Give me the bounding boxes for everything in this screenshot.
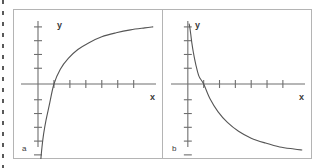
dashed-margin-rule <box>2 0 4 168</box>
x-axis-label-a: x <box>150 93 155 102</box>
curve-a <box>39 27 153 159</box>
plot-area-a <box>13 9 163 159</box>
panel-caption-a: a <box>22 145 26 153</box>
x-axis-label-b: x <box>299 93 304 102</box>
plot-area-b <box>163 9 312 159</box>
y-axis-label-b: y <box>195 21 200 30</box>
figure-root: y x a y x b <box>0 0 324 168</box>
panel-a: y x a <box>13 9 163 159</box>
panel-b: y x b <box>163 9 312 159</box>
y-axis-label-a: y <box>57 21 62 30</box>
curve-b <box>189 24 302 150</box>
panel-caption-b: b <box>172 145 176 153</box>
